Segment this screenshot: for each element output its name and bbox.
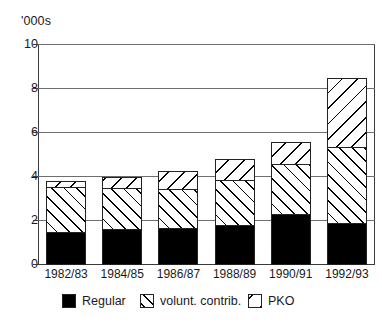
legend-item-regular: Regular (62, 294, 126, 308)
solid-black-swatch (62, 294, 76, 308)
hatch-pattern (327, 78, 367, 148)
hatch-pattern (327, 147, 367, 224)
bar-segment-regular (271, 214, 311, 265)
legend-label: PKO (268, 295, 294, 308)
legend-item-volunt-contrib: volunt. contrib. (140, 294, 241, 308)
gridline (38, 44, 375, 45)
plot-right-border (374, 44, 375, 265)
x-axis-labels: 1982/831984/851986/871988/891990/911992/… (38, 267, 375, 285)
bar-segment-regular (158, 228, 198, 265)
x-axis-baseline (38, 264, 375, 265)
legend-item-pko: PKO (248, 294, 294, 308)
bar-segment-regular (102, 229, 142, 265)
hatch-pattern (215, 159, 255, 181)
bar-segment-volunt-contrib (46, 187, 86, 233)
forward-hatch-swatch (140, 294, 154, 308)
bar-segment-volunt-contrib (158, 189, 198, 229)
legend-label: volunt. contrib. (160, 295, 241, 308)
x-axis-tick-label: 1988/89 (213, 267, 256, 281)
bar-segment-regular (215, 225, 255, 265)
bar-segment-pko (327, 78, 367, 148)
x-axis-tick-label: 1990/91 (269, 267, 312, 281)
gridline (38, 176, 375, 177)
plot-area (38, 44, 375, 264)
y-axis-line (38, 44, 39, 265)
bar-segment-pko (158, 171, 198, 190)
bar-1986-87 (158, 171, 198, 264)
page-top-crop-artifact (0, 0, 382, 8)
x-axis-tick-label: 1986/87 (157, 267, 200, 281)
hatch-pattern (271, 142, 311, 165)
hatch-pattern (102, 188, 142, 230)
chart-legend: Regularvolunt. contrib.PKO (0, 291, 382, 315)
hatch-pattern (158, 189, 198, 229)
hatch-pattern (140, 294, 154, 308)
hatch-pattern (215, 180, 255, 226)
bar-1984-85 (102, 177, 142, 264)
back-hatch-swatch (248, 294, 262, 308)
bar-segment-regular (46, 232, 86, 265)
bar-segment-regular (327, 223, 367, 265)
bar-segment-volunt-contrib (271, 164, 311, 216)
x-axis-tick-label: 1982/83 (44, 267, 87, 281)
legend-label: Regular (82, 295, 126, 308)
stacked-bar-chart: '000s 0246810 1982/831984/851986/871988/… (0, 0, 382, 323)
x-axis-tick-label: 1984/85 (101, 267, 144, 281)
bar-segment-pko (215, 159, 255, 181)
gridline (38, 88, 375, 89)
bar-1992-93 (327, 78, 367, 264)
hatch-pattern (158, 171, 198, 190)
x-axis-tick-label: 1992/93 (325, 267, 368, 281)
hatch-pattern (248, 294, 262, 308)
gridline (38, 220, 375, 221)
gridline (38, 132, 375, 133)
hatch-pattern (271, 164, 311, 216)
bar-1988-89 (215, 159, 255, 264)
bar-1990-91 (271, 142, 311, 264)
y-axis: 0246810 (0, 0, 38, 323)
hatch-pattern (46, 187, 86, 233)
bar-segment-pko (271, 142, 311, 165)
bar-segment-volunt-contrib (215, 180, 255, 226)
bar-1982-83 (46, 181, 86, 264)
bar-segment-volunt-contrib (102, 188, 142, 230)
bar-segment-volunt-contrib (327, 147, 367, 224)
